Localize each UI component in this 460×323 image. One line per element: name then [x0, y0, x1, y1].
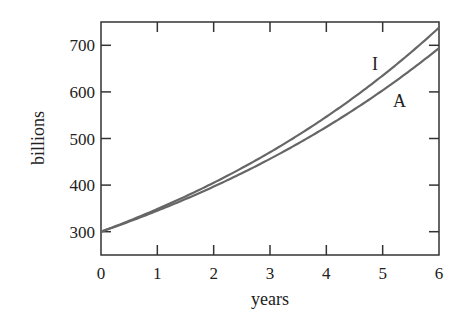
- y-tick-label: 400: [70, 176, 96, 195]
- y-axis-label: billions: [28, 111, 48, 165]
- x-tick-label: 1: [153, 264, 162, 283]
- curve-label-I: I: [372, 54, 378, 74]
- curve-I: [101, 28, 439, 232]
- curve-A: [101, 48, 439, 232]
- y-tick-label: 700: [70, 36, 96, 55]
- y-tick-label: 500: [70, 130, 96, 149]
- x-tick-label: 0: [97, 264, 106, 283]
- x-tick-label: 5: [378, 264, 387, 283]
- plot-frame: [101, 22, 439, 255]
- x-axis-label: years: [251, 289, 289, 309]
- line-chart: 0123456 300400500600700 years billions I…: [0, 0, 460, 323]
- y-axis-ticks: 300400500600700: [70, 36, 440, 241]
- x-tick-label: 2: [209, 264, 218, 283]
- y-tick-label: 300: [70, 223, 96, 242]
- curve-label-A: A: [393, 91, 406, 111]
- y-tick-label: 600: [70, 83, 96, 102]
- x-tick-label: 3: [266, 264, 275, 283]
- curves: [101, 28, 439, 232]
- x-tick-label: 4: [322, 264, 331, 283]
- x-tick-label: 6: [435, 264, 444, 283]
